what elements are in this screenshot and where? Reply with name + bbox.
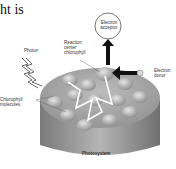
chlorophyll-molecules-label: Chlorophyllmolecules	[0, 97, 23, 107]
electron-acceptor-label: Electronacceptor	[100, 20, 118, 30]
photon-label: Photon	[24, 48, 38, 53]
photosystem-label: Photosystem	[82, 151, 110, 156]
arrow-up-icon	[102, 39, 114, 46]
photosystem-diagram	[0, 0, 176, 169]
reaction-center-label: Reactioncenterchlorophyll	[64, 40, 86, 55]
electron-donor-label: Electrondonor	[154, 68, 171, 78]
